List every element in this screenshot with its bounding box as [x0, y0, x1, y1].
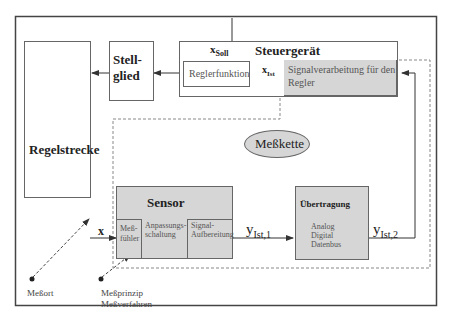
signalverarbeitung-block: Signalverarbeitung für den Regler [284, 60, 397, 96]
signalverarbeitung-label-2: Regler [288, 77, 315, 88]
reglerfunktion-block: Reglerfunktion [183, 61, 250, 87]
anpassung-label-1: Anpassungs- [145, 221, 186, 230]
x-label: x [98, 224, 104, 239]
sensor-label: Sensor [147, 195, 185, 211]
uebertragung-label: Übertragung [300, 199, 350, 209]
messort-label: Meßort [27, 288, 54, 298]
x-ist-sub: Ist [267, 70, 275, 78]
messfuehler-cell: Meß- fühler [117, 219, 142, 258]
regelstrecke-label: Regelstrecke [29, 142, 100, 158]
messkette-label: Meßkette [255, 136, 304, 152]
messprinzip-label: Meßprinzip [101, 288, 143, 298]
messkette-ellipse: Meßkette [244, 130, 310, 158]
regelstrecke-block: Regelstrecke [24, 41, 91, 198]
messfuehler-label-2: fühler [120, 234, 139, 243]
anpassungsschaltung-cell: Anpassungs- schaltung [142, 219, 188, 258]
y-ist1-base: y [246, 221, 254, 237]
uebertragung-item-analog: Analog [311, 222, 335, 231]
y-ist2-label: yIst,2 [373, 221, 398, 240]
stellglied-label-2: glied [113, 68, 140, 84]
aufbereitung-label-2: Aufbereitung [191, 230, 234, 239]
x-soll-label: xSoll [210, 43, 228, 58]
signalaufbereitung-cell: Signal- Aufbereitung [188, 219, 232, 258]
anpassung-label-2: schaltung [145, 230, 176, 239]
y-ist2-base: y [373, 221, 381, 237]
reglerfunktion-label: Reglerfunktion [189, 68, 250, 79]
aufbereitung-label-1: Signal- [191, 221, 214, 230]
signalverarbeitung-label-1: Signalverarbeitung für den [288, 64, 395, 75]
steuergeraet-label: Steuergerät [255, 43, 320, 59]
messverfahren-label: Meßverfahren [101, 299, 152, 309]
stellglied-block: Stell- glied [109, 41, 154, 101]
uebertragung-item-datenbus: Datenbus [311, 240, 341, 249]
y-ist2-sub: Ist,2 [381, 229, 399, 240]
x-soll-sub: Soll [216, 49, 229, 58]
stellglied-label-1: Stell- [113, 52, 142, 68]
messfuehler-label-1: Meß- [120, 224, 137, 233]
sensor-block: Sensor Meß- fühler Anpassungs- schaltung… [116, 186, 233, 259]
uebertragung-item-digital: Digital [311, 231, 333, 240]
y-ist1-label: yIst,1 [246, 221, 271, 240]
x-ist-label: xIst [262, 64, 275, 78]
y-ist1-sub: Ist,1 [254, 229, 272, 240]
uebertragung-block: Übertragung Analog Digital Datenbus [295, 186, 369, 260]
